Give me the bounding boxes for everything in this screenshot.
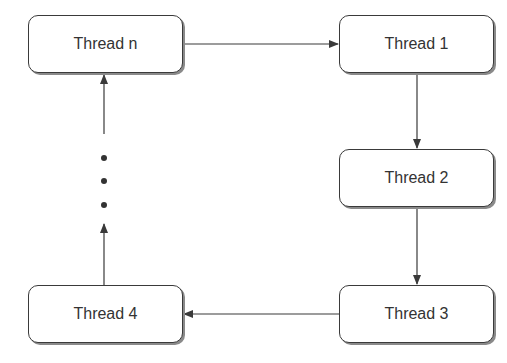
node-thread-4: Thread 4 [28,285,183,343]
node-label: Thread 2 [384,169,448,187]
ellipsis-dots [101,155,107,208]
node-label: Thread n [73,35,137,53]
node-thread-1: Thread 1 [339,15,494,73]
node-label: Thread 4 [73,305,137,323]
node-label: Thread 1 [384,35,448,53]
node-thread-n: Thread n [28,15,183,73]
node-thread-3: Thread 3 [339,285,494,343]
node-label: Thread 3 [384,305,448,323]
node-thread-2: Thread 2 [339,149,494,207]
